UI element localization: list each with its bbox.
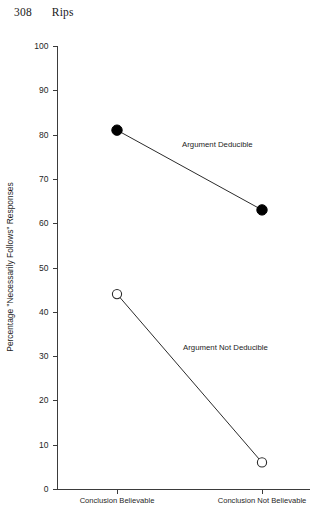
series-layer: [112, 125, 267, 467]
y-tick-label-90: 90: [39, 85, 49, 95]
y-tick-label-20: 20: [39, 395, 49, 405]
chart-canvas: 0102030405060708090100 Argument Deducibl…: [0, 0, 322, 524]
data-point-s0-p0: [112, 125, 122, 135]
x-tick-label-conclusion-believable: Conclusion Believable: [80, 496, 155, 505]
y-tick-label-50: 50: [39, 263, 49, 273]
series-line-1: [117, 294, 262, 462]
y-tick-label-100: 100: [34, 41, 48, 51]
y-axis-title: Percentage "Necessarily Follows" Respons…: [5, 182, 15, 351]
data-point-s1-p1: [257, 458, 266, 467]
x-tick-label-conclusion-not-believable: Conclusion Not Believable: [218, 496, 307, 505]
y-tick-label-80: 80: [39, 130, 49, 140]
y-tick-label-70: 70: [39, 174, 49, 184]
data-point-s0-p1: [257, 205, 267, 215]
line-chart: 0102030405060708090100 Argument Deducibl…: [0, 0, 322, 524]
y-axis-ticks: 0102030405060708090100: [34, 41, 57, 494]
y-tick-label-30: 30: [39, 351, 49, 361]
series-annotation-argument-not-deducible: Argument Not Deducible: [183, 343, 268, 352]
y-tick-label-10: 10: [39, 440, 49, 450]
series-annotation-argument-deducible: Argument Deducible: [182, 140, 253, 149]
y-tick-label-40: 40: [39, 307, 49, 317]
data-point-s1-p0: [112, 289, 121, 298]
y-tick-label-0: 0: [44, 484, 49, 494]
y-tick-label-60: 60: [39, 218, 49, 228]
